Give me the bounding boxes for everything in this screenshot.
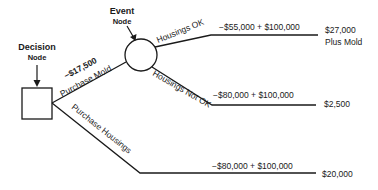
decision-tree-diagram: Decision Node Event Node Purchase Mold −… (0, 0, 378, 190)
housings-not-ok-outcome: $2,500 (324, 99, 350, 109)
purchase-housings-calc: −$80,000 + $100,000 (212, 161, 293, 171)
event-node-label-line2: Node (113, 17, 132, 26)
purchase-housings-outcome: $20,000 (322, 169, 353, 179)
housings-ok-label: Housings OK (155, 17, 205, 45)
housings-ok-outcome-note: Plus Mold (325, 37, 363, 47)
event-node-circle (125, 39, 157, 71)
decision-node-arrowhead (34, 80, 41, 87)
event-node-label-line1: Event (110, 6, 135, 16)
housings-ok-branch-line (155, 35, 318, 47)
decision-node-box (22, 88, 52, 119)
purchase-housings-label: Purchase Housings (70, 102, 134, 156)
housings-not-ok-label: Housings Not OK (151, 68, 213, 110)
housings-not-ok-calc: −$80,000 + $100,000 (213, 90, 294, 100)
housings-ok-calc: −$55,000 + $100,000 (219, 22, 300, 32)
decision-node-label-line1: Decision (18, 42, 56, 52)
event-node-arrowhead (130, 34, 137, 41)
housings-ok-outcome: $27,000 (325, 25, 356, 35)
decision-node-label-line2: Node (28, 53, 47, 62)
